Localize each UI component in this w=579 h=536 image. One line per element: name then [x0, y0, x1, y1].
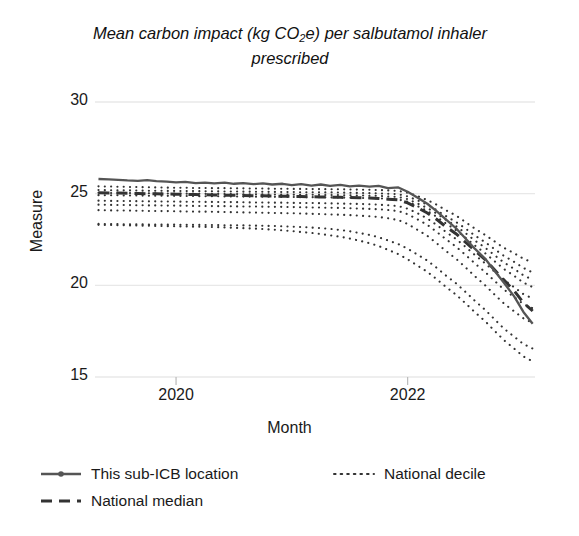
legend-item-national-decile[interactable]: National decile: [333, 466, 486, 482]
legend-item-this-sub-icb-location[interactable]: This sub-ICB location: [40, 466, 238, 482]
legend-label-2: National median: [91, 493, 203, 509]
legend-swatch-solid-marker: [40, 467, 82, 481]
chart-container: Mean carbon impact (kg CO2e) per salbuta…: [0, 0, 579, 536]
chart-legend: This sub-ICB location National decile Na…: [40, 466, 579, 520]
legend-swatch-dashed: [40, 494, 82, 508]
legend-label-0: This sub-ICB location: [91, 466, 238, 482]
legend-label-1: National decile: [384, 466, 486, 482]
legend-item-national-median[interactable]: National median: [40, 493, 203, 509]
legend-swatch-dotted: [333, 467, 375, 481]
x-axis-label: Month: [0, 419, 579, 437]
legend-row-1: This sub-ICB location National decile: [40, 466, 579, 493]
plot-area: [0, 0, 579, 420]
legend-row-2: National median: [40, 493, 579, 520]
